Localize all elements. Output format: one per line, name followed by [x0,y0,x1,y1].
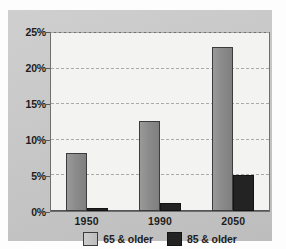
x-axis-labels: 195019902050 [50,213,270,229]
bar-group-1990 [124,33,197,211]
bar-1950-85-older [87,208,108,211]
y-tick-label: 15% [26,98,46,110]
legend-entry-65-older[interactable]: 65 & older [83,232,153,246]
x-axis-label-2050: 2050 [197,213,270,229]
y-tick-label: 20% [26,62,46,74]
legend-swatch-85-and-older [167,232,182,246]
bar-2050-65-older [212,47,233,211]
bar-1990-85-older [160,203,181,211]
y-tick-label: 5% [31,170,46,182]
chart-figure: 0%5%10%15%20%25% 195019902050 65 & older… [0,0,286,249]
x-axis-label-1950: 1950 [50,213,123,229]
chart-legend: 65 & older85 & older [50,230,270,248]
bar-group-1950 [51,33,124,211]
bar-1950-65-older [66,153,87,211]
bar-1990-65-older [139,121,160,211]
legend-entry-85-older[interactable]: 85 & older [167,232,237,246]
y-tick-mark [46,140,50,141]
y-tick-label: 25% [26,26,46,38]
x-axis-label-1990: 1990 [123,213,196,229]
y-tick-mark [46,68,50,69]
plot-area [50,32,270,212]
y-tick-label: 0% [31,206,46,218]
y-tick-mark [46,176,50,177]
y-tick-mark [46,104,50,105]
legend-label: 65 & older [103,233,153,245]
chart-panel: 0%5%10%15%20%25% 195019902050 65 & older… [8,10,272,241]
y-tick-label: 10% [26,134,46,146]
y-tick-mark [46,32,50,33]
legend-label: 85 & older [187,233,237,245]
bar-2050-85-older [233,175,254,211]
bar-group-2050 [196,33,269,211]
bar-groups [51,33,269,211]
legend-swatch-65-and-older [83,232,98,246]
